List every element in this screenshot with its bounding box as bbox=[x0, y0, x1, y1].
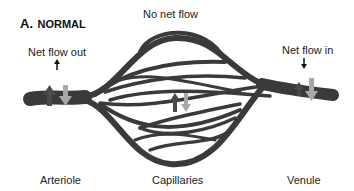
capillary-down-arrow-icon bbox=[181, 93, 191, 112]
capillary-network-diagram bbox=[0, 0, 354, 191]
net-flow-in-arrow-icon bbox=[301, 58, 307, 69]
arteriole-vessel bbox=[30, 97, 85, 99]
capillary-lower-5 bbox=[135, 134, 215, 140]
vessel-network bbox=[30, 33, 333, 164]
net-flow-out-arrow-icon bbox=[54, 59, 60, 70]
